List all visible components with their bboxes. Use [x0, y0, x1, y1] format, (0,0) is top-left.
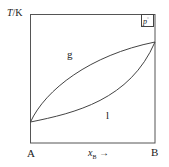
y-axis-label: T/K [7, 8, 23, 18]
gas-region-label: g [67, 49, 73, 60]
plot-frame [31, 15, 156, 144]
component-b-label: B [151, 147, 158, 158]
liquid-region-label: l [106, 110, 109, 121]
dew-point-curve [31, 42, 156, 122]
pressure-label: p° [143, 16, 149, 26]
bubble-point-curve [31, 42, 156, 122]
arrow-right-icon: → [99, 147, 109, 158]
x-axis-label: xB → [88, 148, 109, 160]
component-a-label: A [27, 148, 35, 159]
